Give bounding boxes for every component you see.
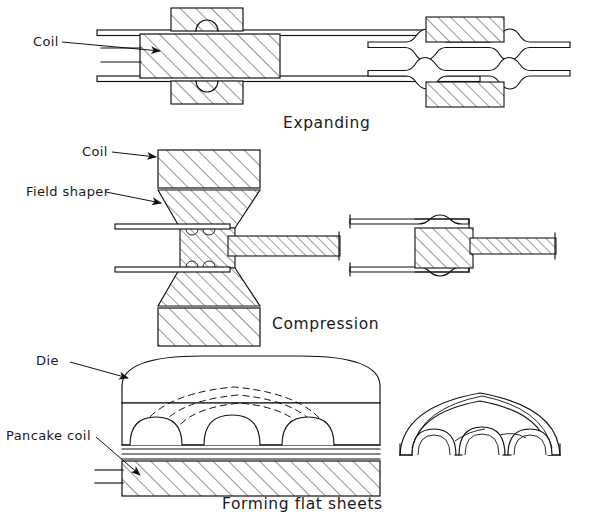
die-dome	[122, 356, 380, 403]
expanding-left-view: Coil	[33, 8, 480, 104]
formed-tube-upper	[368, 17, 570, 61]
forming-left-view: Die Pancake coil	[6, 353, 380, 496]
tube-wall-lower-compression	[115, 267, 230, 272]
field-shaper-top	[158, 190, 260, 228]
caption-compression: Compression	[272, 315, 379, 333]
die-block-upper	[171, 8, 243, 31]
pancake-coil-block	[122, 461, 380, 496]
label-die: Die	[36, 353, 59, 368]
coil-block	[140, 34, 280, 78]
leader-field-shaper	[106, 192, 161, 203]
formed-tube-lower	[368, 58, 570, 108]
panel-forming-flat-sheets: Die Pancake coil	[6, 353, 560, 513]
coil-block-bottom	[158, 308, 260, 346]
caption-forming-flat-sheets: Forming flat sheets	[222, 495, 383, 513]
sheet-stack	[122, 449, 380, 459]
forming-right-view	[400, 393, 560, 455]
label-field-shaper: Field shaper	[26, 184, 110, 199]
caption-expanding: Expanding	[283, 114, 370, 132]
label-coil-compression: Coil	[82, 144, 108, 159]
leader-coil-compression	[112, 152, 156, 157]
tube-wall-upper-compression	[115, 224, 230, 229]
label-pancake-coil: Pancake coil	[6, 428, 91, 443]
panel-expanding: Coil Expanding	[33, 8, 570, 132]
mandrel-shaft	[228, 232, 340, 260]
panel-scallops	[412, 427, 552, 455]
coil-block-top	[158, 150, 260, 188]
pancake-coil-leads	[95, 470, 123, 483]
compression-right-view	[350, 215, 556, 276]
field-shaper-bottom	[158, 268, 260, 306]
panel-compression: Coil Field shaper Compression	[26, 144, 556, 346]
coil-leads	[101, 48, 141, 62]
label-coil-expanding: Coil	[33, 34, 59, 49]
diagram-canvas: Coil Expanding	[0, 0, 590, 531]
leader-die	[70, 362, 128, 378]
die-block-lower	[171, 81, 243, 104]
